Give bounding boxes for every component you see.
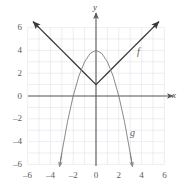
y-tick-label: 0 [4, 92, 22, 101]
x-axis-label: x [172, 91, 176, 100]
curve-label-f: f [137, 47, 140, 57]
x-tick-label: 0 [84, 171, 108, 180]
curve-f-arrow-end [153, 22, 159, 28]
y-tick-label: 2 [4, 69, 22, 78]
y-tick-label: –2 [4, 114, 22, 123]
x-tick-label: 4 [130, 171, 154, 180]
x-tick-label: 6 [152, 171, 176, 180]
curve-f-arrow-start [33, 22, 39, 28]
graph-figure: –6–4–20246 6420–2–4–6 x y f g [0, 0, 180, 183]
axis-lines [28, 13, 173, 166]
x-tick-label: –6 [16, 171, 40, 180]
curve-label-g: g [130, 128, 135, 138]
x-tick-label: –4 [38, 171, 62, 180]
x-tick-label: –2 [61, 171, 85, 180]
y-axis-label: y [93, 3, 97, 12]
y-tick-label: 6 [4, 23, 22, 32]
y-tick-label: –4 [4, 137, 22, 146]
coordinate-plane [0, 0, 180, 183]
y-tick-label: 4 [4, 46, 22, 55]
y-tick-label: –6 [4, 160, 22, 169]
x-tick-label: 2 [107, 171, 131, 180]
